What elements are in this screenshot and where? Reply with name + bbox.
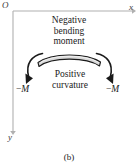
moment-arrow-right-head bbox=[106, 74, 114, 84]
moment-left-symbol: M bbox=[21, 84, 29, 94]
moment-left-label: −M bbox=[16, 84, 29, 95]
origin-label: O bbox=[2, 0, 9, 10]
moment-text-line-3: moment bbox=[38, 36, 100, 47]
moment-right-symbol: M bbox=[111, 84, 119, 94]
moment-arrow-right bbox=[97, 54, 114, 85]
curved-beam-element bbox=[38, 55, 101, 67]
y-axis-label: y bbox=[8, 132, 12, 142]
positive-curvature-label: Positive curvature bbox=[42, 69, 98, 90]
moment-arrow-left bbox=[25, 54, 42, 85]
moment-arrow-left-head bbox=[25, 74, 33, 84]
moment-text-line-2: bending bbox=[38, 26, 100, 37]
moment-text-line-1: Negative bbox=[38, 15, 100, 26]
figure-caption: (b) bbox=[0, 152, 138, 162]
curvature-text-line-2: curvature bbox=[42, 80, 98, 91]
moment-right-label: −M bbox=[106, 84, 119, 95]
x-axis-label: x bbox=[129, 2, 133, 12]
bending-moment-diagram: O x y Negative bending moment Positive c… bbox=[0, 0, 138, 167]
curvature-text-line-1: Positive bbox=[42, 69, 98, 80]
negative-bending-moment-label: Negative bending moment bbox=[38, 15, 100, 47]
